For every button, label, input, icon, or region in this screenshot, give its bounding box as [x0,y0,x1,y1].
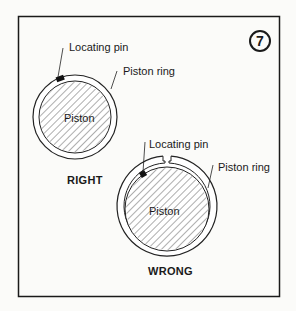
wrong-ring-label: Piston ring [218,161,270,173]
right-pin-label: Locating pin [69,41,128,53]
right-piston-assembly [33,48,117,159]
wrong-piston-label: Piston [149,205,180,217]
right-piston-label: Piston [64,112,95,124]
wrong-pin-label: Locating pin [149,138,208,150]
figure-number-badge: 7 [249,30,271,52]
right-ring-label: Piston ring [123,65,175,77]
wrong-caption: WRONG [148,265,193,277]
right-caption: RIGHT [67,174,103,186]
wrong-piston-assembly [117,142,217,256]
figure-frame [19,17,280,297]
